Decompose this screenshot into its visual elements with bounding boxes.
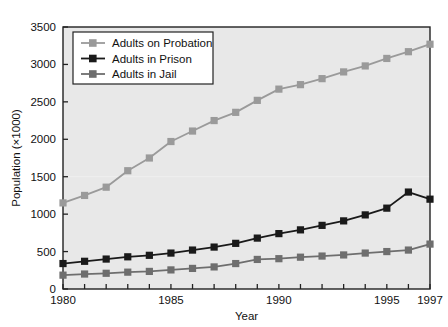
data-point-marker xyxy=(59,272,66,279)
data-point-marker xyxy=(362,249,369,256)
data-point-marker xyxy=(59,199,66,206)
data-point-marker xyxy=(405,48,412,55)
chart-figure: 0500100015002000250030003500198019851990… xyxy=(0,0,448,327)
data-point-marker xyxy=(426,41,433,48)
data-point-marker xyxy=(124,167,131,174)
x-tick-label: 1990 xyxy=(266,294,292,306)
y-tick-label: 500 xyxy=(37,246,56,258)
legend-marker-square xyxy=(89,55,97,63)
x-tick-label: 1997 xyxy=(417,294,443,306)
legend-label: Adults in Jail xyxy=(112,68,177,80)
data-point-marker xyxy=(232,240,239,247)
data-point-marker xyxy=(383,248,390,255)
data-point-marker xyxy=(232,260,239,267)
data-point-marker xyxy=(103,184,110,191)
data-point-marker xyxy=(167,266,174,273)
data-point-marker xyxy=(81,258,88,265)
data-point-marker xyxy=(340,217,347,224)
data-point-marker xyxy=(103,270,110,277)
data-point-marker xyxy=(232,109,239,116)
data-point-marker xyxy=(167,249,174,256)
legend-marker-square xyxy=(89,39,97,47)
data-point-marker xyxy=(254,235,261,242)
y-tick-label: 3000 xyxy=(30,58,56,70)
data-point-marker xyxy=(103,255,110,262)
x-tick-label: 1980 xyxy=(50,294,76,306)
data-point-marker xyxy=(297,226,304,233)
data-point-marker xyxy=(275,255,282,262)
data-point-marker xyxy=(383,205,390,212)
y-axis-title: Population (×1000) xyxy=(10,109,22,207)
line-chart: 0500100015002000250030003500198019851990… xyxy=(0,0,448,327)
data-point-marker xyxy=(362,211,369,218)
data-point-marker xyxy=(211,117,218,124)
data-point-marker xyxy=(167,138,174,145)
data-point-marker xyxy=(211,263,218,270)
data-point-marker xyxy=(124,253,131,260)
data-point-marker xyxy=(211,243,218,250)
data-point-marker xyxy=(318,252,325,259)
data-point-marker xyxy=(146,268,153,275)
y-tick-label: 2500 xyxy=(30,96,56,108)
y-tick-label: 1000 xyxy=(30,208,56,220)
data-point-marker xyxy=(59,260,66,267)
data-point-marker xyxy=(340,68,347,75)
data-point-marker xyxy=(297,254,304,261)
data-point-marker xyxy=(297,81,304,88)
y-tick-label: 2000 xyxy=(30,133,56,145)
data-point-marker xyxy=(146,154,153,161)
data-point-marker xyxy=(189,246,196,253)
legend-label: Adults in Prison xyxy=(112,53,192,65)
data-point-marker xyxy=(405,246,412,253)
data-point-marker xyxy=(426,240,433,247)
data-point-marker xyxy=(318,222,325,229)
y-tick-label: 1500 xyxy=(30,171,56,183)
y-tick-label: 3500 xyxy=(30,21,56,33)
data-point-marker xyxy=(318,75,325,82)
legend-marker-square xyxy=(89,70,97,78)
x-tick-label: 1985 xyxy=(158,294,184,306)
data-point-marker xyxy=(254,256,261,263)
data-point-marker xyxy=(362,62,369,69)
data-point-marker xyxy=(189,265,196,272)
data-point-marker xyxy=(405,188,412,195)
data-point-marker xyxy=(383,55,390,62)
data-point-marker xyxy=(426,196,433,203)
data-point-marker xyxy=(189,127,196,134)
x-axis-title: Year xyxy=(235,310,258,322)
data-point-marker xyxy=(124,269,131,276)
data-point-marker xyxy=(275,86,282,93)
data-point-marker xyxy=(81,192,88,199)
legend-label: Adults on Probation xyxy=(112,37,212,49)
data-point-marker xyxy=(340,251,347,258)
data-point-marker xyxy=(254,97,261,104)
legend: Adults on ProbationAdults in PrisonAdult… xyxy=(73,32,213,84)
x-tick-label: 1995 xyxy=(374,294,400,306)
data-point-marker xyxy=(146,252,153,259)
data-point-marker xyxy=(275,230,282,237)
data-point-marker xyxy=(81,270,88,277)
